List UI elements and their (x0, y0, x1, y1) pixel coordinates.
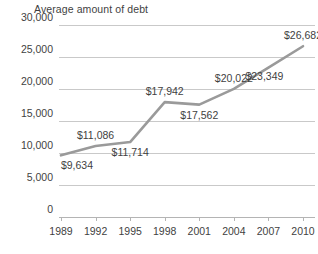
x-axis-tick (96, 217, 97, 221)
x-axis-tick (130, 217, 131, 221)
series-line-chart (59, 25, 315, 217)
x-axis-tick-label-2010: 2010 (291, 225, 314, 237)
data-point-label-1998: $17,942 (146, 85, 184, 97)
data-point-label-2010: $26,682 (284, 29, 318, 41)
data-point-label-1989: $9,634 (61, 159, 93, 171)
x-axis-tick-label-1992: 1992 (84, 225, 107, 237)
x-axis-tick-label-1998: 1998 (153, 225, 176, 237)
data-point-label-2001: $17,562 (180, 109, 218, 121)
x-axis-tick-label-2004: 2004 (222, 225, 245, 237)
y-axis-tick-label: 15,000 (21, 107, 53, 121)
chart-container: Average amount of debt 05,00010,00015,00… (0, 0, 318, 254)
x-axis-tick (199, 217, 200, 221)
x-axis-tick (61, 217, 62, 221)
x-axis-tick (268, 217, 269, 221)
x-axis-tick (303, 217, 304, 221)
y-axis-tick-label: 30,000 (21, 11, 53, 25)
y-axis-tick-label: 5,000 (27, 171, 53, 185)
y-axis-tick-label: 20,000 (21, 75, 53, 89)
x-axis-tick-label-2007: 2007 (257, 225, 280, 237)
x-axis-tick-label-1995: 1995 (118, 225, 141, 237)
data-point-label-1992: $11,086 (77, 129, 114, 141)
x-axis-tick-label-1989: 1989 (49, 225, 72, 237)
data-point-label-1995: $11,714 (112, 146, 149, 158)
y-axis-tick-label: 25,000 (21, 43, 53, 57)
plot-area: 05,00010,00015,00020,00025,00030,000 198… (59, 25, 315, 217)
x-axis-tick-label-2001: 2001 (188, 225, 211, 237)
x-axis-tick (165, 217, 166, 221)
x-axis-line (59, 217, 315, 218)
x-axis-tick (234, 217, 235, 221)
data-point-label-2007: $23,349 (245, 70, 283, 82)
y-axis-tick-label: 0 (47, 203, 53, 217)
y-axis-tick-label: 10,000 (21, 139, 53, 153)
